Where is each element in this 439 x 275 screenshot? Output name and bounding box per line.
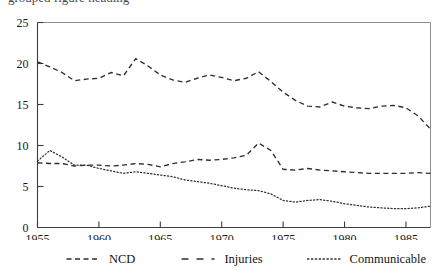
x-tick-label: 1980 [333,232,357,241]
legend-label-ncd: NCD [109,252,135,267]
y-tick-label: 20 [17,57,29,71]
x-tick-label: 1960 [87,232,111,241]
legend-item-ncd: NCD [66,252,135,267]
plot-axes [38,23,431,228]
chart-figure: grouped figure heading 0510152025 195519… [0,0,439,275]
legend-label-communicable: Communicable [350,252,426,267]
series-lines [38,59,431,209]
y-tick-label: 15 [17,98,29,112]
dotted-line-icon [307,254,341,264]
x-tick-label: 1965 [148,232,172,241]
chart-legend: NCDInjuriesCommunicable [0,248,439,270]
x-tick-label: 1975 [271,232,295,241]
dashed-line-icon [66,254,100,264]
y-axis-labels: 0510152025 [17,16,29,235]
y-tick-label: 5 [23,180,29,194]
plot-frame-top-right [38,23,431,228]
series-line-injuries [38,143,431,173]
line-chart-svg: 0510152025 1955196019651970197519801985 [0,0,439,240]
plot-area: 0510152025 1955196019651970197519801985 [0,0,439,240]
x-axis-labels: 1955196019651970197519801985 [26,232,418,241]
long-dashed-line-icon [181,254,215,264]
legend-item-communicable: Communicable [307,252,426,267]
x-tick-label: 1985 [394,232,418,241]
legend-item-injuries: Injuries [181,252,262,267]
y-axis-ticks [38,23,44,187]
series-line-communicable [38,150,431,208]
series-line-ncd [38,59,431,130]
plot-frame [38,23,431,228]
x-axis-ticks [38,222,406,228]
x-tick-label: 1955 [26,232,50,241]
legend-label-injuries: Injuries [224,252,262,267]
x-tick-label: 1970 [210,232,234,241]
y-tick-label: 25 [17,16,29,30]
y-tick-label: 10 [17,139,29,153]
